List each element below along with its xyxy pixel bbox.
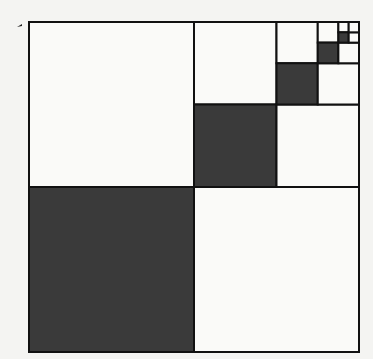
square-l5-top-left	[338, 22, 348, 32]
square-l5-bottom-right	[349, 32, 359, 42]
square-l3-top-left	[277, 22, 318, 63]
square-l4-shaded	[318, 43, 339, 64]
square-l1-shaded	[29, 187, 194, 352]
square-l2-shaded	[194, 105, 277, 188]
square-l3-bottom-right	[318, 63, 359, 104]
square-l1-top-left	[29, 22, 194, 187]
square-l2-bottom-right	[277, 105, 360, 188]
square-l5-shaded	[338, 32, 348, 42]
nested-squares	[29, 22, 359, 352]
square-l4-bottom-right	[338, 43, 359, 64]
square-l1-bottom-right	[194, 187, 359, 352]
square-final-top-right	[349, 22, 359, 32]
stray-mark	[17, 24, 22, 27]
square-l2-top-left	[194, 22, 277, 105]
square-l4-top-left	[318, 22, 339, 43]
geometric-series-diagram	[0, 0, 373, 359]
square-l3-shaded	[277, 63, 318, 104]
